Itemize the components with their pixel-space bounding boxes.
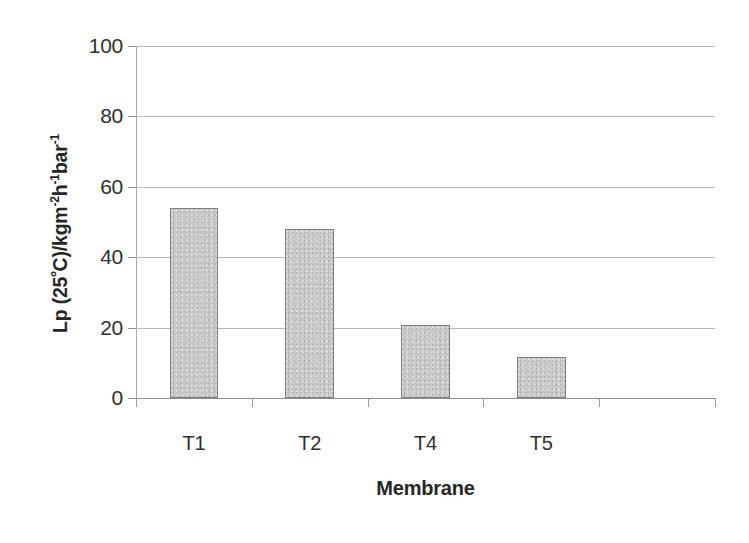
x-axis-line: [136, 398, 715, 399]
gridline: [136, 46, 715, 47]
bar[interactable]: [401, 325, 450, 398]
x-axis-tick: [136, 398, 137, 407]
y-axis-title-exp-h: -1: [48, 174, 62, 184]
y-tick-label: 100: [89, 34, 123, 58]
y-axis-title-exp-bar: -1: [48, 134, 62, 144]
degree-symbol: º: [48, 271, 65, 276]
y-axis-title-exp-m2: -2: [48, 196, 62, 206]
y-axis-title-h: h: [49, 184, 71, 196]
plot-area: 020406080100T1T2T4T5: [136, 46, 715, 398]
y-axis-tick: [128, 398, 136, 399]
bar[interactable]: [285, 229, 334, 398]
y-tick-label: 0: [112, 386, 123, 410]
bar-chart: Lp (25ºC)/kgm-2h-1bar-1 020406080100T1T2…: [0, 0, 749, 543]
y-axis-title-mid: C)/kgm: [49, 207, 71, 272]
x-axis-tick: [368, 398, 369, 407]
y-axis-tick: [128, 46, 136, 47]
x-tick-label: T1: [182, 432, 205, 455]
y-axis-tick: [128, 187, 136, 188]
x-tick-label: T2: [298, 432, 321, 455]
x-axis-tick: [715, 398, 716, 407]
y-axis-title: Lp (25ºC)/kgm-2h-1bar-1: [49, 24, 72, 444]
y-tick-label: 60: [100, 175, 123, 199]
x-axis-tick: [483, 398, 484, 407]
y-tick-label: 80: [100, 104, 123, 128]
y-axis-title-lead: Lp (25: [49, 277, 71, 333]
x-tick-label: T5: [530, 432, 553, 455]
gridline: [136, 257, 715, 258]
y-axis-tick: [128, 116, 136, 117]
y-axis-tick: [128, 328, 136, 329]
x-tick-label: T4: [414, 432, 437, 455]
x-axis-tick: [599, 398, 600, 407]
y-tick-label: 20: [100, 316, 123, 340]
x-axis-tick: [252, 398, 253, 407]
y-axis-tick: [128, 257, 136, 258]
gridline: [136, 187, 715, 188]
y-axis-title-bar: bar: [49, 144, 71, 174]
gridline: [136, 116, 715, 117]
x-axis-title: Membrane: [136, 477, 715, 500]
y-tick-label: 40: [100, 245, 123, 269]
bar[interactable]: [170, 208, 219, 398]
bar[interactable]: [517, 357, 566, 398]
